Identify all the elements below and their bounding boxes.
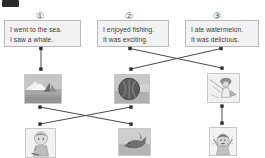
connector-dot-whale[interactable] xyxy=(129,122,132,125)
connector-dot-boy[interactable] xyxy=(38,122,41,125)
connector-dot-box2[interactable] xyxy=(128,47,131,50)
connector-dot-sea-top[interactable] xyxy=(39,67,42,70)
connector-dot-happy-child[interactable] xyxy=(220,121,223,124)
connector-dot-sea-bottom[interactable] xyxy=(38,105,41,108)
connector-dot-fishing-bottom[interactable] xyxy=(220,104,223,107)
connector-dot-box1[interactable] xyxy=(39,47,42,50)
connector-dot-watermelon-bottom[interactable] xyxy=(129,105,132,108)
connector-dot-watermelon-top[interactable] xyxy=(129,67,132,70)
connector-dot-fishing-top[interactable] xyxy=(220,66,223,69)
worksheet-page: ① ② ③ I went to the sea. I saw a whale. … xyxy=(0,0,265,158)
connector-layer xyxy=(0,0,265,158)
connector-dot-box3[interactable] xyxy=(219,47,222,50)
